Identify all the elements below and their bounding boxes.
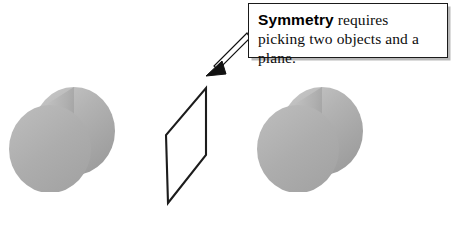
symmetry-plane [166, 88, 206, 203]
right-cylinder-front-face [257, 105, 339, 192]
left-cylinder-svg [4, 80, 124, 192]
callout-term: Symmetry [258, 11, 334, 28]
callout-box: Symmetry requires picking two objects an… [248, 3, 448, 58]
figure-canvas: Symmetry requires picking two objects an… [0, 0, 467, 227]
right-cylinder [244, 80, 369, 192]
left-cylinder [4, 80, 124, 192]
right-cylinder-svg [244, 80, 369, 192]
callout-arrow [206, 33, 250, 76]
left-cylinder-front-face [9, 105, 91, 192]
callout-text: Symmetry requires picking two objects an… [258, 10, 439, 67]
